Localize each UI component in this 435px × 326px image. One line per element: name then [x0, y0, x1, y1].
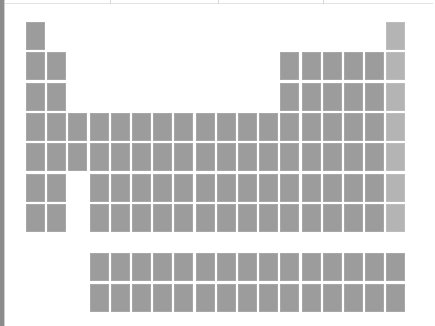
element-cell-p5-g12[interactable] — [259, 143, 278, 171]
element-cell-p4-g16[interactable] — [344, 113, 363, 141]
element-cell-p6-g18[interactable] — [386, 174, 405, 202]
element-cell-p5-g8[interactable] — [174, 143, 193, 171]
lanthanides-cell[interactable] — [90, 253, 109, 281]
element-cell-p7-g9[interactable] — [196, 204, 215, 232]
element-cell-p4-g15[interactable] — [323, 113, 342, 141]
actinides-cell[interactable] — [132, 284, 151, 312]
element-cell-p3-g16[interactable] — [344, 83, 363, 111]
element-cell-p4-g18[interactable] — [386, 113, 405, 141]
element-cell-p1-g18[interactable] — [386, 22, 405, 50]
lanthanides-cell[interactable] — [238, 253, 257, 281]
element-cell-p7-g4[interactable] — [90, 204, 109, 232]
element-cell-p7-g2[interactable] — [47, 204, 66, 232]
element-cell-p2-g17[interactable] — [365, 52, 384, 80]
element-cell-p4-g1[interactable] — [26, 113, 45, 141]
element-cell-p4-g7[interactable] — [153, 113, 172, 141]
element-cell-p3-g1[interactable] — [26, 83, 45, 111]
element-cell-p6-g15[interactable] — [323, 174, 342, 202]
element-cell-p4-g14[interactable] — [302, 113, 321, 141]
element-cell-p6-g14[interactable] — [302, 174, 321, 202]
lanthanides-cell[interactable] — [323, 253, 342, 281]
actinides-cell[interactable] — [238, 284, 257, 312]
element-cell-p7-g8[interactable] — [174, 204, 193, 232]
element-cell-p6-g11[interactable] — [238, 174, 257, 202]
actinides-cell[interactable] — [217, 284, 236, 312]
actinides-cell[interactable] — [344, 284, 363, 312]
lanthanides-cell[interactable] — [302, 253, 321, 281]
element-cell-p7-g17[interactable] — [365, 204, 384, 232]
element-cell-p4-g4[interactable] — [90, 113, 109, 141]
element-cell-p2-g14[interactable] — [302, 52, 321, 80]
element-cell-p4-g8[interactable] — [174, 113, 193, 141]
element-cell-p4-g3[interactable] — [68, 113, 87, 141]
element-cell-p5-g17[interactable] — [365, 143, 384, 171]
element-cell-p6-g17[interactable] — [365, 174, 384, 202]
element-cell-p2-g16[interactable] — [344, 52, 363, 80]
actinides-cell[interactable] — [90, 284, 109, 312]
element-cell-p2-g2[interactable] — [47, 52, 66, 80]
lanthanides-cell[interactable] — [153, 253, 172, 281]
element-cell-p6-g9[interactable] — [196, 174, 215, 202]
element-cell-p7-g5[interactable] — [111, 204, 130, 232]
element-cell-p6-g1[interactable] — [26, 174, 45, 202]
element-cell-p5-g5[interactable] — [111, 143, 130, 171]
element-cell-p7-g6[interactable] — [132, 204, 151, 232]
element-cell-p5-g14[interactable] — [302, 143, 321, 171]
element-cell-p5-g6[interactable] — [132, 143, 151, 171]
element-cell-p5-g18[interactable] — [386, 143, 405, 171]
element-cell-p3-g15[interactable] — [323, 83, 342, 111]
actinides-cell[interactable] — [280, 284, 299, 312]
element-cell-p6-g6[interactable] — [132, 174, 151, 202]
element-cell-p3-g2[interactable] — [47, 83, 66, 111]
element-cell-p5-g2[interactable] — [47, 143, 66, 171]
actinides-cell[interactable] — [386, 284, 405, 312]
element-cell-p3-g14[interactable] — [302, 83, 321, 111]
actinides-cell[interactable] — [153, 284, 172, 312]
element-cell-p4-g9[interactable] — [196, 113, 215, 141]
element-cell-p4-g10[interactable] — [217, 113, 236, 141]
element-cell-p4-g17[interactable] — [365, 113, 384, 141]
element-cell-p6-g12[interactable] — [259, 174, 278, 202]
lanthanides-cell[interactable] — [132, 253, 151, 281]
element-cell-p5-g15[interactable] — [323, 143, 342, 171]
actinides-cell[interactable] — [259, 284, 278, 312]
element-cell-p5-g3[interactable] — [68, 143, 87, 171]
element-cell-p5-g1[interactable] — [26, 143, 45, 171]
element-cell-p5-g16[interactable] — [344, 143, 363, 171]
element-cell-p5-g11[interactable] — [238, 143, 257, 171]
element-cell-p3-g17[interactable] — [365, 83, 384, 111]
element-cell-p4-g13[interactable] — [280, 113, 299, 141]
element-cell-p7-g1[interactable] — [26, 204, 45, 232]
element-cell-p2-g15[interactable] — [323, 52, 342, 80]
element-cell-p5-g4[interactable] — [90, 143, 109, 171]
element-cell-p4-g6[interactable] — [132, 113, 151, 141]
element-cell-p5-g7[interactable] — [153, 143, 172, 171]
element-cell-p2-g18[interactable] — [386, 52, 405, 80]
lanthanides-cell[interactable] — [111, 253, 130, 281]
element-cell-p5-g10[interactable] — [217, 143, 236, 171]
lanthanides-cell[interactable] — [280, 253, 299, 281]
element-cell-p7-g16[interactable] — [344, 204, 363, 232]
element-cell-p7-g18[interactable] — [386, 204, 405, 232]
element-cell-p5-g9[interactable] — [196, 143, 215, 171]
actinides-cell[interactable] — [365, 284, 384, 312]
element-cell-p7-g13[interactable] — [280, 204, 299, 232]
element-cell-p6-g13[interactable] — [280, 174, 299, 202]
element-cell-p3-g18[interactable] — [386, 83, 405, 111]
element-cell-p7-g7[interactable] — [153, 204, 172, 232]
element-cell-p2-g1[interactable] — [26, 52, 45, 80]
element-cell-p6-g10[interactable] — [217, 174, 236, 202]
element-cell-p1-g1[interactable] — [26, 22, 45, 50]
actinides-cell[interactable] — [196, 284, 215, 312]
element-cell-p5-g13[interactable] — [280, 143, 299, 171]
element-cell-p2-g13[interactable] — [280, 52, 299, 80]
actinides-cell[interactable] — [111, 284, 130, 312]
element-cell-p4-g5[interactable] — [111, 113, 130, 141]
actinides-cell[interactable] — [302, 284, 321, 312]
lanthanides-cell[interactable] — [217, 253, 236, 281]
element-cell-p6-g8[interactable] — [174, 174, 193, 202]
element-cell-p3-g13[interactable] — [280, 83, 299, 111]
element-cell-p7-g12[interactable] — [259, 204, 278, 232]
element-cell-p6-g4[interactable] — [90, 174, 109, 202]
element-cell-p4-g2[interactable] — [47, 113, 66, 141]
